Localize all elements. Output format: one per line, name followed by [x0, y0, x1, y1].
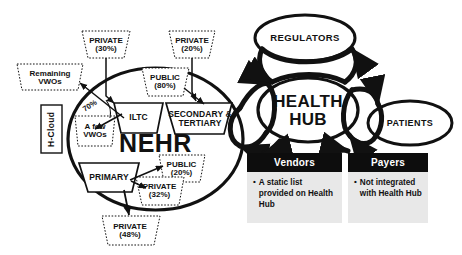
- health-hub-label: HEALTH HUB: [263, 91, 353, 131]
- annotation-private-30: PRIVATE (30%): [82, 34, 130, 56]
- h-cloud-label: H-Cloud: [41, 105, 62, 153]
- payers-card-body: • Not integrated with Health Hub: [348, 172, 428, 205]
- health-hub-line1: HEALTH: [273, 93, 342, 111]
- iltc-label: ILTC: [114, 109, 163, 125]
- annotation-private-20-line2: (20%): [181, 45, 202, 53]
- payers-card: Payers • Not integrated with Health Hub: [348, 153, 428, 223]
- regulators-label: REGULATORS: [265, 31, 345, 45]
- annotation-public-80-line2: (80%): [154, 82, 175, 90]
- payers-bullet-icon: •: [354, 177, 357, 199]
- secondary-tertiary-text: SECONDARY & TERTIARY: [167, 110, 233, 128]
- vendors-card: Vendors • A static list provided on Heal…: [247, 153, 342, 223]
- vendors-card-body: • A static list provided on Health Hub: [247, 172, 342, 216]
- annotation-public-80: PUBLIC (80%): [141, 71, 189, 93]
- annotation-public-20: PUBLIC (20%): [158, 158, 205, 180]
- primary-label: PRIMARY: [80, 169, 138, 185]
- annotation-private-48: PRIVATE (48%): [101, 220, 159, 242]
- patients-label: PATIENTS: [378, 117, 442, 130]
- arrow-hub-to-vendors: [264, 141, 280, 153]
- vendors-card-text: A static list provided on Health Hub: [259, 177, 338, 210]
- payers-card-text: Not integrated with Health Hub: [360, 177, 424, 199]
- annotation-public-20-line2: (20%): [171, 169, 192, 177]
- vendors-bullet-icon: •: [253, 177, 256, 210]
- annotation-private-32-line2: (32%): [149, 191, 170, 199]
- secondary-tertiary-label: SECONDARY & TERTIARY: [167, 106, 233, 132]
- annotation-private-30-line2: (30%): [95, 45, 116, 53]
- annotation-remaining-vwos-line2: VWOs: [38, 78, 62, 86]
- annotation-private-48-line2: (48%): [119, 231, 140, 239]
- diagram-canvas: NEHR ILTC SECONDARY & TERTIARY PRIMARY R…: [0, 0, 462, 255]
- nehr-label: NEHR: [98, 128, 213, 158]
- annotation-a-few-vwos-line2: VWOs: [83, 131, 107, 139]
- payers-card-title: Payers: [348, 153, 428, 172]
- arrow-hub-to-payers: [330, 141, 348, 151]
- annotation-private-20: PRIVATE (20%): [169, 34, 215, 56]
- vendors-card-title: Vendors: [247, 153, 342, 172]
- health-hub-line2: HUB: [289, 111, 327, 129]
- annotation-remaining-vwos: Remaining VWOs: [18, 67, 82, 89]
- annotation-private-32: PRIVATE (32%): [135, 180, 184, 202]
- annotation-a-few-vwos: A few VWOs: [75, 120, 115, 142]
- arrow-patients-to-hub: [350, 136, 376, 144]
